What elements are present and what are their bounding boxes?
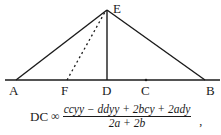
point-c-marker (145, 79, 148, 82)
formula-numerator: ccyy − ddyy + 2bcy + 2ady (63, 103, 192, 117)
label-e: E (113, 1, 121, 16)
label-c: C (141, 83, 150, 98)
formula-trailing-comma: , (199, 114, 202, 129)
label-b: B (206, 83, 215, 98)
formula: DC ∞ ccyy − ddyy + 2bcy + 2ady 2a + 2b , (30, 103, 202, 130)
segment-ae (16, 10, 107, 80)
formula-lhs: DC (30, 109, 48, 125)
formula-fraction: ccyy − ddyy + 2bcy + 2ady 2a + 2b (63, 103, 192, 130)
segment-fe-dotted (67, 12, 105, 80)
geometry-diagram: E A F D C B (0, 0, 221, 100)
label-a: A (9, 83, 19, 98)
label-f: F (61, 83, 68, 98)
label-d: D (102, 83, 111, 98)
formula-relation-symbol: ∞ (51, 109, 60, 124)
segment-eb (107, 10, 205, 80)
formula-denominator: 2a + 2b (109, 117, 146, 130)
